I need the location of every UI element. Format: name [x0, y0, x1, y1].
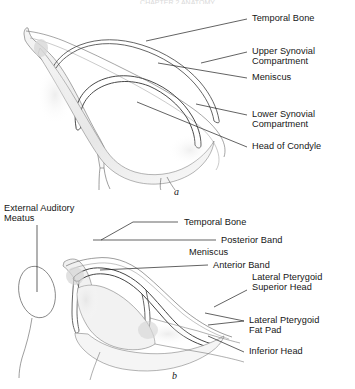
label-lateral-pterygoid-superior-head-line1: Lateral Pterygoid: [252, 272, 322, 282]
panel-a-shadow-blob-2: [168, 134, 212, 166]
panel-b-drawing: [14, 258, 244, 380]
panel-a-drawing: [24, 28, 225, 190]
label-temporal-bone-b: Temporal Bone: [184, 217, 246, 227]
panel-a-shadow-blob-3: [34, 39, 48, 57]
label-inferior-head-b: Inferior Head: [249, 346, 303, 356]
panel-a-condylar-neck-left: [104, 168, 110, 189]
label-head-of-condyle-a: Head of Condyle: [252, 141, 321, 151]
label-meniscus-a: Meniscus: [252, 72, 291, 82]
panel-b-meatus-tail: [19, 318, 32, 378]
label-lower-synovial-compartment-a-line1: Lower Synovial: [252, 109, 315, 119]
panel-b-shadow-blob-2: [66, 267, 84, 285]
leader-lateral-pterygoid-fat-b: [205, 313, 244, 321]
label-upper-synovial-compartment-a-line1: Upper Synovial: [252, 46, 315, 56]
panel-letter-b: b: [172, 370, 177, 381]
leader-temporal-bone-b-2: [101, 222, 133, 240]
leader-meniscus-a: [158, 63, 247, 78]
panel-a-meniscus-tip-left: [76, 127, 81, 130]
panel-a-upper-synovial-tip-right: [214, 120, 219, 123]
label-posterior-band-b: Posterior Band: [221, 235, 282, 245]
leader-lateral-pterygoid-sup-b: [214, 290, 247, 307]
panel-b-shadow-blob-3: [138, 321, 158, 339]
panel-b-retrodiscal-tip: [75, 330, 79, 333]
panel-a-condylar-neck-left-2: [99, 168, 100, 190]
leader-upper-synovial-a: [201, 52, 247, 63]
label-meniscus-b: Meniscus: [189, 247, 228, 257]
leader-anterior-band-b: [100, 265, 208, 270]
label-external-auditory-meatus-line1: External Auditory: [4, 203, 74, 213]
label-external-auditory-meatus-line2: Meatus: [4, 213, 34, 223]
label-lower-synovial-compartment-a-line2: Compartment: [252, 119, 308, 129]
label-anterior-band-b: Anterior Band: [213, 260, 270, 270]
panel-letter-a: a: [174, 186, 179, 197]
label-lateral-pterygoid-superior-head-line2: Superior Head: [252, 282, 312, 292]
leader-lateral-pterygoid-fat-b2: [208, 321, 244, 325]
leader-lower-synovial-a: [196, 104, 247, 115]
label-lateral-pterygoid-fat-pad-line2: Fat Pad: [249, 325, 282, 335]
panel-a-shadow-blob-1: [37, 65, 73, 125]
label-temporal-bone-a: Temporal Bone: [252, 13, 314, 23]
leader-temporal-bone-a: [146, 19, 247, 41]
label-upper-synovial-compartment-a-line2: Compartment: [252, 56, 308, 66]
label-lateral-pterygoid-fat-pad-line1: Lateral Pterygoid: [249, 315, 319, 325]
